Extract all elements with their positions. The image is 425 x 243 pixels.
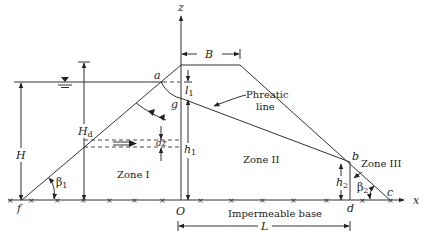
base-mark: × (197, 196, 204, 205)
B-dimension-label: B (204, 48, 213, 61)
H-dimension-label: H (15, 149, 26, 162)
seepage-flow-arrow (159, 114, 165, 121)
x-axis-label: x (413, 194, 420, 207)
origin-label: O (176, 205, 185, 218)
dz-label: dz (156, 138, 167, 148)
phreatic-line-pointer (214, 95, 246, 106)
base-mark: × (131, 196, 138, 205)
zone-i-label: Zone I (117, 169, 150, 180)
point-b-label: b (352, 150, 359, 163)
point-g-label: g (171, 98, 178, 111)
base-mark: × (106, 196, 113, 205)
phreatic-line-label: Phreatic (246, 89, 289, 100)
base-mark: × (28, 196, 35, 205)
zone-iii-pointer (354, 172, 362, 178)
phreatic-line-label-2: line (256, 101, 275, 112)
point-a-label: a (154, 69, 161, 82)
zone-iii-label: Zone III (361, 158, 401, 169)
z-axis-label: z (177, 1, 184, 14)
dam-seepage-diagram: x × × × × × × × × × × × × × × z O Phreat… (0, 0, 425, 243)
l1-label: l1 (185, 84, 194, 98)
beta2-label: β2 (357, 181, 368, 195)
impermeable-base-label: Impermeable base (228, 208, 322, 219)
base-mark: × (290, 196, 297, 205)
beta2-arc (370, 186, 374, 199)
base-mark: × (159, 196, 166, 205)
zone-ii-label: Zone II (243, 154, 279, 165)
base-mark: × (80, 196, 87, 205)
base-mark: × (54, 196, 61, 205)
base-mark: × (7, 196, 14, 205)
point-c-label: c (387, 186, 393, 199)
beta1-label: β1 (56, 176, 67, 190)
base-mark: × (359, 196, 366, 205)
point-d-label: d (347, 202, 354, 215)
point-f-label: f (16, 202, 23, 215)
base-mark: × (259, 196, 266, 205)
base-mark: × (323, 196, 330, 205)
base-mark: × (228, 196, 235, 205)
flow-direction-arrow (113, 140, 137, 147)
L-dimension-label: L (260, 220, 268, 233)
